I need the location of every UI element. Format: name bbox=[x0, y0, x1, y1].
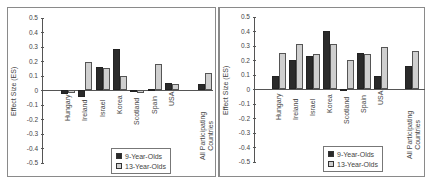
y-tick-label: 0.2 bbox=[12, 58, 38, 65]
category-label: Spain bbox=[151, 96, 159, 114]
legend-label: 13-Year-Olds bbox=[337, 161, 378, 168]
bar-13-year-olds bbox=[381, 47, 388, 89]
legend-swatch-light bbox=[116, 163, 122, 169]
category-label: Korea bbox=[116, 95, 124, 114]
bar-9-year-olds bbox=[306, 56, 313, 89]
y-tick bbox=[253, 31, 256, 32]
y-tick bbox=[253, 133, 256, 134]
bar-13-year-olds bbox=[85, 62, 92, 90]
category-label: Hungary bbox=[64, 94, 72, 120]
bar-9-year-olds bbox=[165, 83, 172, 90]
category-label: USA bbox=[168, 92, 176, 106]
y-tick bbox=[253, 46, 256, 47]
bar-9-year-olds bbox=[272, 76, 279, 89]
bar-9-year-olds bbox=[198, 84, 205, 90]
bar-13-year-olds bbox=[313, 54, 320, 89]
category-label: Scotland bbox=[133, 97, 141, 124]
category-label: All ParticipatingCountries bbox=[406, 111, 422, 159]
legend: 9-Year-Olds13-Year-Olds bbox=[111, 148, 171, 174]
category-label: Scotland bbox=[343, 96, 351, 123]
y-tick-label: 0.4 bbox=[224, 28, 250, 35]
bar-13-year-olds bbox=[172, 84, 179, 90]
y-tick bbox=[253, 17, 256, 18]
y-tick bbox=[41, 18, 44, 19]
bar-9-year-olds bbox=[340, 89, 347, 91]
legend-swatch-light bbox=[328, 161, 334, 167]
legend-swatch-dark bbox=[116, 153, 122, 159]
bar-13-year-olds bbox=[296, 44, 303, 89]
y-tick-label: 0.5 bbox=[224, 13, 250, 20]
y-tick bbox=[253, 60, 256, 61]
bar-13-year-olds bbox=[120, 76, 127, 91]
bar-9-year-olds bbox=[357, 53, 364, 89]
legend-label: 13-Year-Olds bbox=[125, 163, 166, 170]
category-label: Korea bbox=[326, 94, 334, 113]
bar-13-year-olds bbox=[330, 44, 337, 89]
bar-9-year-olds bbox=[374, 76, 381, 89]
y-tick-label: 0.3 bbox=[224, 42, 250, 49]
bar-13-year-olds bbox=[155, 64, 162, 90]
legend-label: 9-Year-Olds bbox=[337, 151, 374, 158]
y-tick-label: -0.2 bbox=[12, 116, 38, 123]
legend-label: 9-Year-Olds bbox=[125, 153, 162, 160]
plot-area: 0.50.40.30.20.10-0.1-0.2-0.3-0.4-0.5Effe… bbox=[8, 8, 215, 176]
y-tick bbox=[41, 148, 44, 149]
category-label: Ireland bbox=[292, 98, 300, 119]
category-label: Israel bbox=[309, 99, 317, 116]
y-tick bbox=[41, 76, 44, 77]
bar-9-year-olds bbox=[405, 66, 412, 89]
category-label: Israel bbox=[99, 100, 107, 117]
bar-9-year-olds bbox=[96, 67, 103, 90]
y-tick-label: -0.2 bbox=[224, 115, 250, 122]
bar-13-year-olds bbox=[364, 54, 371, 89]
y-tick-label: -0.5 bbox=[224, 158, 250, 165]
y-tick bbox=[41, 163, 44, 164]
y-tick bbox=[41, 119, 44, 120]
y-tick-label: -0.3 bbox=[12, 130, 38, 137]
category-label: Spain bbox=[360, 95, 368, 113]
legend-item: 9-Year-Olds bbox=[328, 149, 378, 159]
y-tick bbox=[41, 61, 44, 62]
bar-13-year-olds bbox=[205, 73, 212, 90]
category-label: USA bbox=[377, 91, 385, 105]
y-tick bbox=[41, 47, 44, 48]
y-axis-title: Effect Size (ES) bbox=[10, 67, 17, 116]
y-axis-title: Effect Size (ES) bbox=[222, 66, 229, 115]
chart-panel-left: 0.50.40.30.20.10-0.1-0.2-0.3-0.4-0.5Effe… bbox=[7, 7, 216, 177]
y-tick bbox=[41, 32, 44, 33]
y-tick bbox=[41, 105, 44, 106]
y-tick bbox=[41, 90, 44, 91]
bar-9-year-olds bbox=[323, 31, 330, 89]
bar-13-year-olds bbox=[137, 90, 144, 93]
bar-13-year-olds bbox=[412, 51, 419, 89]
bar-9-year-olds bbox=[78, 90, 85, 97]
bar-13-year-olds bbox=[279, 53, 286, 89]
y-tick bbox=[253, 162, 256, 163]
bar-9-year-olds bbox=[148, 89, 155, 91]
y-tick-label: -0.5 bbox=[12, 159, 38, 166]
y-tick bbox=[253, 75, 256, 76]
bar-9-year-olds bbox=[113, 49, 120, 90]
y-tick-label: 0.5 bbox=[12, 14, 38, 21]
category-label: Hungary bbox=[275, 93, 283, 119]
bar-13-year-olds bbox=[68, 90, 75, 93]
y-tick bbox=[41, 134, 44, 135]
y-tick-label: -0.4 bbox=[224, 144, 250, 151]
y-tick bbox=[253, 104, 256, 105]
y-tick bbox=[253, 89, 256, 90]
legend-item: 13-Year-Olds bbox=[328, 159, 378, 169]
bar-9-year-olds bbox=[289, 60, 296, 89]
y-tick-label: -0.3 bbox=[224, 129, 250, 136]
legend-swatch-dark bbox=[328, 151, 334, 157]
bar-9-year-olds bbox=[130, 90, 137, 92]
legend-item: 13-Year-Olds bbox=[116, 161, 166, 171]
y-tick-label: -0.4 bbox=[12, 145, 38, 152]
y-tick-label: 0.4 bbox=[12, 29, 38, 36]
y-tick bbox=[253, 118, 256, 119]
y-tick bbox=[253, 147, 256, 148]
legend: 9-Year-Olds13-Year-Olds bbox=[323, 146, 383, 172]
legend-item: 9-Year-Olds bbox=[116, 151, 166, 161]
chart-panel-right: 0.50.40.30.20.10-0.1-0.2-0.3-0.4-0.5Effe… bbox=[218, 7, 425, 177]
plot-area: 0.50.40.30.20.10-0.1-0.2-0.3-0.4-0.5Effe… bbox=[220, 8, 424, 176]
y-tick-label: 0.2 bbox=[224, 57, 250, 64]
